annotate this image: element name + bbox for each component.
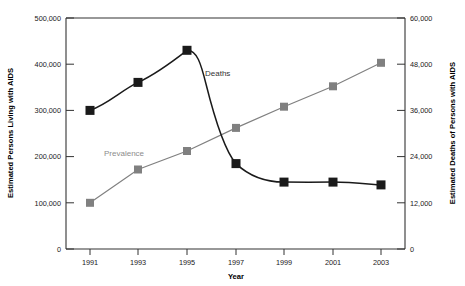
- right-axis-ticks: [397, 18, 405, 249]
- y2-tick-label: 0: [410, 245, 414, 254]
- x-tick-label: 1995: [179, 258, 195, 267]
- data-point-marker: [232, 124, 240, 132]
- x-tick-label: 2001: [325, 258, 341, 267]
- data-point-marker: [86, 106, 95, 115]
- series-label-prevalence: Prevalence: [104, 149, 145, 158]
- x-tick-label: 1997: [228, 258, 244, 267]
- x-tick-label: 1999: [276, 258, 292, 267]
- y2-tick-label: 24,000: [410, 152, 432, 161]
- data-point-marker: [232, 159, 241, 168]
- x-axis-tick-labels: 1991 1993 1995 1997 1999 2001 2003: [82, 258, 389, 267]
- y-tick-label: 500,000: [35, 14, 61, 23]
- y-tick-label: 300,000: [35, 106, 61, 115]
- data-point-marker: [134, 166, 142, 174]
- y-tick-label: 0: [57, 245, 61, 254]
- series-deaths: [86, 46, 386, 190]
- data-point-marker: [280, 103, 288, 111]
- data-point-marker: [183, 46, 192, 55]
- y-tick-label: 400,000: [35, 60, 61, 69]
- y-tick-label: 100,000: [35, 199, 61, 208]
- y2-axis-title: Estimated Deaths of Persons with AIDS: [448, 62, 457, 204]
- data-point-marker: [280, 178, 289, 187]
- y2-tick-label: 36,000: [410, 106, 432, 115]
- series-prevalence: [86, 59, 385, 207]
- x-tick-label: 1991: [82, 258, 98, 267]
- data-point-marker: [134, 78, 143, 87]
- chart-container: 500,000 400,000 300,000 200,000 100,000 …: [0, 0, 465, 286]
- y-tick-label: 200,000: [35, 152, 61, 161]
- data-point-marker: [377, 59, 385, 67]
- x-axis-title: Year: [228, 272, 244, 281]
- y2-tick-label: 12,000: [410, 199, 432, 208]
- y2-tick-label: 48,000: [410, 60, 432, 69]
- series-label-deaths: Deaths: [205, 69, 230, 78]
- data-point-marker: [329, 178, 338, 187]
- right-axis-tick-labels: 60,000 48,000 36,000 24,000 12,000 0: [410, 14, 432, 254]
- aids-prevalence-deaths-chart: 500,000 400,000 300,000 200,000 100,000 …: [0, 0, 465, 286]
- x-tick-label: 2003: [373, 258, 389, 267]
- x-tick-label: 1993: [130, 258, 146, 267]
- data-point-marker: [329, 82, 337, 90]
- data-point-marker: [377, 180, 386, 189]
- data-point-marker: [183, 147, 191, 155]
- left-axis-tick-labels: 500,000 400,000 300,000 200,000 100,000 …: [35, 14, 61, 254]
- y2-tick-label: 60,000: [410, 14, 432, 23]
- left-axis-ticks: [66, 18, 74, 249]
- x-axis-ticks: [90, 249, 381, 255]
- plot-frame: [66, 18, 405, 249]
- data-point-marker: [86, 199, 94, 207]
- y-axis-title: Estimated Persons Living with AIDS: [6, 68, 15, 198]
